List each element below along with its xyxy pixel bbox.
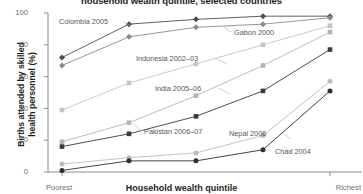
data-point [193,24,199,30]
data-point [127,158,132,163]
data-point [194,93,199,98]
data-point [60,144,65,149]
data-point [60,108,65,113]
data-point [194,114,199,119]
data-point [328,23,333,28]
data-point [59,62,65,68]
data-point [261,43,266,48]
data-point [328,47,333,52]
data-point [260,21,266,27]
series-label-nepal: Nepal 2006 [229,129,266,138]
series-label-indonesia: Indonesia 2002–03 [136,54,198,63]
data-point [328,88,333,93]
data-point [59,55,65,61]
data-point [127,81,132,86]
chart-container: household wealth quintile, selected coun… [0,0,363,194]
series-label-india: India 2005–06 [155,84,201,93]
data-point [60,139,65,144]
data-point [328,79,333,84]
data-point [260,13,266,19]
data-point [127,132,132,137]
data-point [261,147,266,152]
plot-area [0,0,363,194]
series-label-colombia: Colombia 2005 [59,17,108,26]
data-point [127,120,132,125]
x-axis-title: Household wealth quintile [0,183,363,193]
data-point [126,34,132,40]
series-label-chad: Chad 2004 [275,147,311,156]
data-point [328,30,333,35]
data-point [60,162,65,167]
data-point [194,150,199,155]
data-point [193,16,199,22]
data-point [261,63,266,68]
data-point [60,168,65,173]
series-label-pakistan: Pakistan 2006–07 [144,127,202,136]
data-point [194,158,199,163]
data-point [261,89,266,94]
series-indonesia [60,23,333,112]
series-label-gabon: Gabon 2000 [234,28,274,37]
